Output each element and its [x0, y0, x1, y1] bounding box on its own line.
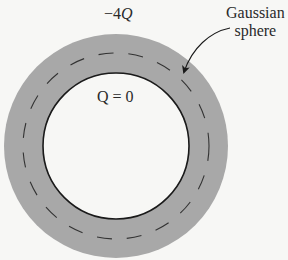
- outer-charge-symbol: Q: [121, 5, 133, 22]
- outer-charge-prefix: −4: [104, 5, 121, 22]
- inner-charge-label: Q = 0: [97, 89, 134, 105]
- outer-charge-label: −4Q: [104, 6, 133, 22]
- gaussian-sphere-label: Gaussian sphere: [226, 4, 285, 40]
- gaussian-label-line2: sphere: [226, 22, 285, 40]
- gaussian-label-line1: Gaussian: [226, 4, 285, 22]
